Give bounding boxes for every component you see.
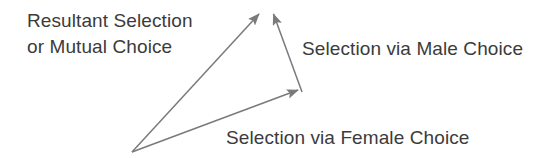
vector-diagram: Resultant Selection or Mutual Choice Sel… xyxy=(0,0,543,158)
resultant-selection-label-line2: or Mutual Choice xyxy=(27,34,193,60)
resultant-selection-label: Resultant Selection or Mutual Choice xyxy=(27,8,193,60)
resultant-selection-label-line1: Resultant Selection xyxy=(27,8,193,34)
female-choice-label: Selection via Female Choice xyxy=(226,125,469,150)
male-choice-vector xyxy=(274,14,303,92)
male-choice-label: Selection via Male Choice xyxy=(302,36,523,61)
